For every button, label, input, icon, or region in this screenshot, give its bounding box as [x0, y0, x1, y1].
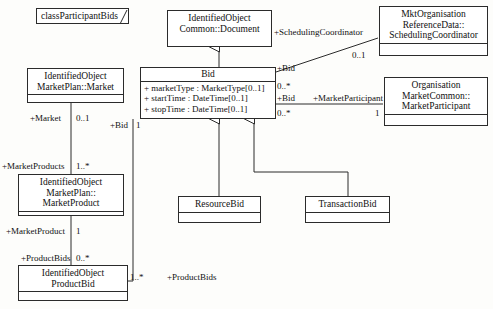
attribute-start-time: + startTime : DateTime[0..1]: [144, 93, 272, 104]
assoc-label-market-participant-mult: 1: [375, 108, 380, 118]
uml-class-diagram: classParticipantBids IdentifiedObject Co…: [0, 0, 493, 309]
class-box-scheduling-coordinator[interactable]: MktOrganisation ReferenceData:: Scheduli…: [379, 6, 488, 56]
class-name-market: IdentifiedObject MarketPlan::Market: [28, 69, 123, 94]
assoc-label-market-participant-role: +MarketParticipant: [313, 93, 383, 103]
assoc-label-product-bids-mult-left: 0..*: [76, 253, 90, 263]
class-box-transaction-bid[interactable]: TransactionBid: [305, 196, 390, 223]
class-name-bid: Bid: [141, 68, 275, 81]
assoc-label-bid-role-left: +Bid: [110, 120, 128, 130]
attributes-compartment-bid: + marketType : MarketType[0..1] + startT…: [141, 82, 275, 119]
attribute-market-type: + marketType : MarketType[0..1]: [144, 83, 272, 94]
attributes-compartment-resource-bid: [179, 213, 260, 223]
class-name-market-product: IdentifiedObject MarketPlan:: MarketProd…: [19, 175, 123, 211]
class-name-resource-bid: ResourceBid: [179, 197, 260, 212]
assoc-label-market-role: +Market: [30, 113, 61, 123]
class-box-resource-bid[interactable]: ResourceBid: [178, 196, 261, 223]
assoc-label-market-mult: 0..1: [76, 113, 90, 123]
class-box-document[interactable]: IdentifiedObject Common::Document: [167, 10, 272, 47]
assoc-label-product-bids-mult-right: 1..*: [130, 272, 144, 282]
assoc-label-market-product-mult: 1: [76, 226, 81, 236]
assoc-label-bid-role-sc: +Bid: [277, 63, 295, 73]
assoc-label-bid-mult-sc: 0..*: [277, 81, 291, 91]
class-box-market[interactable]: IdentifiedObject MarketPlan::Market: [27, 68, 124, 103]
class-box-product-bid[interactable]: IdentifiedObject ProductBid: [18, 265, 128, 301]
class-name-scheduling-coordinator: MktOrganisation ReferenceData:: Scheduli…: [380, 7, 487, 43]
class-name-market-participant: Organisation MarketCommon:: MarketPartic…: [385, 78, 487, 114]
tag-fold-corner-icon: [119, 9, 128, 23]
assoc-label-bid-mult-left: 1: [136, 120, 141, 130]
attributes-compartment-scheduling-coordinator: [380, 44, 487, 56]
diagram-title-tag: classParticipantBids: [36, 8, 129, 24]
assoc-label-market-products-mult: 1..*: [76, 161, 90, 171]
attributes-compartment-product-bid: [19, 292, 127, 300]
attributes-compartment-transaction-bid: [306, 213, 389, 223]
assoc-label-product-bids-role-right: +ProductBids: [167, 272, 217, 282]
class-name-document: IdentifiedObject Common::Document: [168, 11, 271, 36]
assoc-label-scheduling-coordinator-mult: 0..1: [352, 50, 366, 60]
assoc-label-market-product-role: +MarketProduct: [6, 226, 65, 236]
attributes-compartment-market: [28, 95, 123, 102]
class-box-market-product[interactable]: IdentifiedObject MarketPlan:: MarketProd…: [18, 174, 124, 216]
assoc-label-scheduling-coordinator-role: +SchedulingCoordinator: [274, 27, 363, 37]
assoc-label-bid-mult-mp: 0..*: [277, 108, 291, 118]
class-box-bid[interactable]: Bid + marketType : MarketType[0..1] + st…: [140, 67, 276, 119]
diagram-title-label: classParticipantBids: [41, 11, 118, 21]
class-box-market-participant[interactable]: Organisation MarketCommon:: MarketPartic…: [384, 77, 488, 126]
attribute-stop-time: + stopTime : DateTime[0..1]: [144, 104, 272, 115]
assoc-label-bid-role-mp: +Bid: [277, 93, 295, 103]
attributes-compartment-market-product: [19, 212, 123, 216]
class-name-product-bid: IdentifiedObject ProductBid: [19, 266, 127, 291]
class-name-transaction-bid: TransactionBid: [306, 197, 389, 212]
assoc-label-market-products-role: +MarketProducts: [2, 161, 65, 171]
attributes-compartment-market-participant: [385, 115, 487, 126]
assoc-label-product-bids-role-left: +ProductBids: [21, 253, 71, 263]
